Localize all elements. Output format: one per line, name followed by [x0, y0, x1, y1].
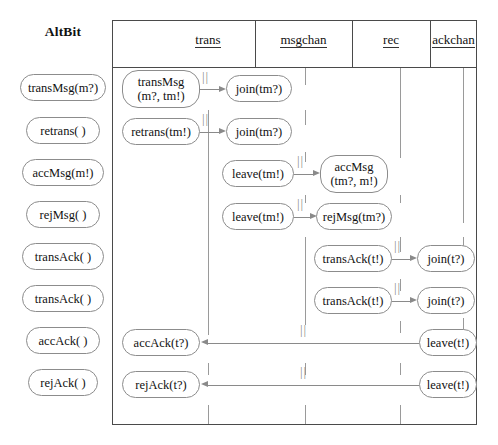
row2-arrow-line	[200, 132, 221, 133]
row8-target-capsule[interactable]: rejAck(t?)	[122, 371, 200, 398]
row2-sync-marker: ||	[202, 112, 209, 125]
lifeline-msgchan-seg1	[305, 68, 306, 85]
row1-source-label-line1: transMsg	[138, 75, 185, 89]
row4-target-label: rejMsg(tm?)	[323, 210, 385, 224]
row7-target-capsule[interactable]: accAck(t?)	[122, 329, 200, 356]
abstract-action-capsule[interactable]: retrans( )	[26, 117, 100, 144]
row1-target-capsule[interactable]: join(tm?)	[226, 75, 292, 102]
abstract-action-capsule[interactable]: transMsg(m?)	[20, 74, 106, 101]
column-header-trans: trans	[158, 32, 258, 48]
row3-target-label-line2: (tm?, m!)	[330, 174, 377, 188]
abstract-action-label: transMsg(m?)	[28, 81, 98, 95]
page-title: AltBit	[20, 24, 106, 40]
lifeline-ackchan-seg1	[463, 68, 464, 223]
lifeline-trans-seg2	[208, 150, 209, 335]
row4-source-capsule[interactable]: leave(tm!)	[222, 203, 294, 230]
abstract-action-capsule[interactable]: transAck( )	[22, 285, 104, 312]
row8-sync-marker: ||	[300, 365, 307, 378]
abstract-action-label: transAck( )	[35, 250, 92, 264]
row3-arrow-line	[294, 174, 315, 175]
abstract-action-capsule[interactable]: accAck( )	[26, 327, 100, 354]
row8-source-capsule[interactable]: leave(t!)	[419, 371, 477, 398]
lifeline-msgchan-seg5	[305, 237, 306, 325]
abstract-action-capsule[interactable]: rejMsg( )	[26, 201, 100, 228]
row5-target-capsule[interactable]: join(t?)	[417, 245, 475, 272]
row5-source-label: transAck(t!)	[322, 252, 383, 266]
row1-source-label-line2: (m?, tm!)	[137, 89, 184, 103]
row6-target-capsule[interactable]: join(t?)	[417, 287, 475, 314]
row1-sync-marker: ||	[202, 70, 209, 83]
abstract-action-label: transAck( )	[35, 292, 92, 306]
row7-arrow-line	[208, 343, 419, 344]
row8-source-label: leave(t!)	[427, 378, 469, 392]
row8-arrow-line	[208, 385, 419, 386]
row1-target-label: join(tm?)	[236, 82, 283, 96]
row6-source-label: transAck(t!)	[322, 294, 383, 308]
lifeline-rec-seg1	[400, 68, 401, 158]
abstract-action-label: rejMsg( )	[40, 208, 87, 222]
row6-sync-marker: ||	[394, 281, 401, 294]
row4-target-capsule[interactable]: rejMsg(tm?)	[316, 203, 392, 230]
row6-target-label: join(t?)	[428, 294, 465, 308]
row7-source-label: leave(t!)	[427, 336, 469, 350]
row8-arrow-head-icon	[201, 381, 208, 387]
row6-source-capsule[interactable]: transAck(t!)	[314, 287, 392, 314]
column-header-rec: rec	[352, 32, 430, 48]
row3-target-label-line1: accMsg	[335, 160, 374, 174]
row7-source-capsule[interactable]: leave(t!)	[419, 329, 477, 356]
abstract-action-label: retrans( )	[40, 124, 85, 138]
lifeline-rec-seg5	[400, 321, 401, 333]
lifeline-rec-seg7	[400, 405, 401, 424]
column-header-trans-label: trans	[195, 32, 220, 48]
row2-target-label: join(tm?)	[236, 125, 283, 139]
row4-sync-marker: ||	[297, 197, 304, 210]
altbit-sequence-diagram: AltBit trans msgchan rec ackchan transMs	[0, 0, 498, 445]
row6-arrow-line	[392, 301, 412, 302]
row2-target-capsule[interactable]: join(tm?)	[226, 118, 292, 145]
row3-arrow-head-icon	[313, 170, 320, 176]
row7-target-label: accAck(t?)	[134, 336, 189, 350]
row3-sync-marker: ||	[297, 154, 304, 167]
row5-source-capsule[interactable]: transAck(t!)	[314, 245, 392, 272]
lifeline-rec-seg6	[400, 363, 401, 375]
row7-sync-marker: ||	[300, 323, 307, 336]
lifeline-msgchan-seg4	[305, 195, 306, 203]
row4-source-label: leave(tm!)	[232, 210, 284, 224]
column-header-msgchan: msgchan	[255, 32, 352, 48]
row7-arrow-head-icon	[201, 339, 208, 345]
column-header-ackchan-label: ackchan	[432, 32, 475, 48]
lifeline-msgchan-seg7	[305, 405, 306, 424]
row5-arrow-line	[392, 259, 412, 260]
abstract-action-capsule[interactable]: accMsg(m!)	[22, 159, 104, 186]
row3-source-capsule[interactable]: leave(tm!)	[222, 160, 294, 187]
abstract-action-label: accAck( )	[39, 334, 88, 348]
row5-arrow-head-icon	[410, 255, 417, 261]
row1-arrow-line	[200, 89, 221, 90]
abstract-action-label: accMsg(m!)	[32, 166, 93, 180]
row3-source-label: leave(tm!)	[232, 167, 284, 181]
row2-source-capsule[interactable]: retrans(tm!)	[122, 118, 200, 145]
lifeline-trans-seg3	[208, 363, 209, 375]
row1-arrow-head-icon	[219, 86, 226, 92]
row5-sync-marker: ||	[394, 239, 401, 252]
abstract-action-capsule[interactable]: transAck( )	[22, 243, 104, 270]
lifeline-msgchan-seg2	[305, 110, 306, 125]
column-header-msgchan-label: msgchan	[280, 32, 326, 48]
row6-arrow-head-icon	[410, 297, 417, 303]
row8-target-label: rejAck(t?)	[135, 378, 186, 392]
lifeline-trans-seg4	[208, 405, 209, 424]
header-separator	[112, 67, 477, 68]
abstract-action-capsule[interactable]: rejAck( )	[28, 369, 98, 396]
column-header-ackchan: ackchan	[430, 32, 477, 48]
abstract-action-label: rejAck( )	[40, 376, 85, 390]
row2-source-label: retrans(tm!)	[131, 125, 191, 139]
row3-target-capsule[interactable]: accMsg (tm?, m!)	[320, 155, 388, 193]
row1-source-capsule[interactable]: transMsg (m?, tm!)	[122, 70, 200, 108]
row2-arrow-head-icon	[219, 128, 226, 134]
row5-target-label: join(t?)	[428, 252, 465, 266]
lifeline-rec-seg2	[400, 195, 401, 203]
lifeline-msgchan-seg3	[305, 152, 306, 162]
column-header-rec-label: rec	[383, 32, 399, 48]
